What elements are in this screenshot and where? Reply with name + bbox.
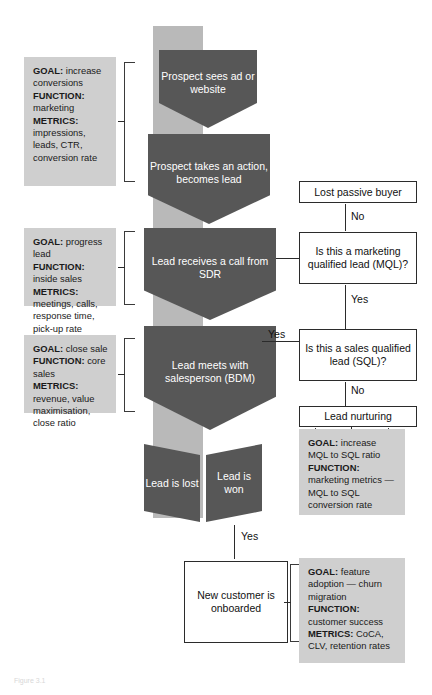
annotation-goal-key: GOAL:	[33, 236, 63, 247]
decision-mql-question[interactable]: Is this a marketing qualified lead (MQL)…	[299, 232, 417, 284]
connector-sql-to-nurturing	[345, 382, 346, 406]
bracket-core-sales	[124, 338, 135, 412]
annotation-metrics-value: revenue, value maximisation, close ratio	[33, 393, 95, 429]
annotation-marketing: GOAL: increase conversions FUNCTION: mar…	[24, 57, 116, 186]
decision-sql-question[interactable]: Is this a sales qualified lead (SQL)?	[299, 329, 417, 381]
connector-funnel-to-mql	[276, 258, 300, 259]
bracket-marketing-stub	[118, 121, 125, 122]
connector-label-yes-onboard: Yes	[241, 530, 258, 542]
outcome-new-customer-onboarded[interactable]: New customer is onboarded	[184, 561, 288, 643]
annotation-function-value: marketing metrics — MQL to SQL conversio…	[308, 474, 394, 510]
annotation-metrics-key: METRICS:	[33, 115, 78, 126]
connector-label-no: No	[351, 210, 364, 222]
annotation-core-sales: GOAL: close sale FUNCTION: core sales ME…	[24, 335, 116, 413]
decision-lost-passive-buyer[interactable]: Lost passive buyer	[299, 181, 417, 203]
connector-label-yes: Yes	[351, 293, 368, 305]
connector-lost-to-mql	[345, 204, 346, 231]
funnel-stage-label: Lead meets with salesperson (BDM)	[144, 359, 276, 398]
diagram-canvas: Prospect sees ad or website Prospect tak…	[0, 0, 432, 695]
annotation-function-value: customer success	[308, 616, 383, 627]
annotation-customer-success: GOAL: feature adoption — churn migration…	[299, 558, 405, 663]
annotation-metrics-key: METRICS:	[33, 380, 78, 391]
annotation-nurturing: GOAL: increase MQL to SQL ratio FUNCTION…	[299, 429, 405, 515]
annotation-goal-value: close sale	[63, 343, 107, 354]
funnel-outcome-lead-is-lost: Lead is lost	[144, 444, 200, 522]
annotation-inside-sales: GOAL: progress lead FUNCTION: inside sal…	[24, 228, 116, 306]
funnel-stage-label: Lead receives a call from SDR	[144, 255, 276, 294]
funnel-stage-label: Prospect sees ad or website	[159, 70, 257, 109]
funnel-stage-label: Prospect takes an action, becomes lead	[148, 160, 270, 199]
connector-won-to-onboard	[234, 525, 235, 559]
connector-mql-to-sql	[345, 285, 346, 329]
figure-caption: Figure 3.1	[14, 676, 314, 685]
annotation-metrics-key: METRICS:	[33, 286, 78, 297]
decision-lead-nurturing[interactable]: Lead nurturing	[299, 406, 417, 427]
bracket-marketing	[124, 62, 135, 182]
funnel-outcome-label: Lead is won	[206, 470, 262, 496]
connector-label-yes-from-bdm: Yes	[268, 328, 285, 340]
annotation-function-value: marketing	[33, 102, 74, 113]
funnel-outcome-label: Lead is lost	[145, 477, 198, 490]
annotation-goal-key: GOAL:	[308, 566, 338, 577]
bracket-customer-success-stub	[284, 602, 291, 603]
annotation-metrics-key: METRICS:	[308, 628, 353, 639]
annotation-goal-key: GOAL:	[33, 65, 63, 76]
annotation-metrics-value: impressions, leads, CTR, conversion rate	[33, 127, 97, 163]
annotation-function-key: FUNCTION:	[33, 261, 85, 272]
annotation-goal-key: GOAL:	[308, 437, 338, 448]
outcome-label: New customer is onboarded	[189, 589, 283, 615]
bracket-inside-sales-stub	[118, 267, 125, 268]
annotation-goal-key: GOAL:	[33, 343, 63, 354]
funnel-outcome-lead-is-won: Lead is won	[206, 444, 262, 522]
decision-label: Lost passive buyer	[314, 186, 402, 199]
decision-label: Lead nurturing	[324, 410, 392, 423]
annotation-function-key: FUNCTION:	[308, 603, 360, 614]
connector-bdm-to-sql	[262, 341, 300, 342]
annotation-function-key: FUNCTION:	[33, 355, 85, 366]
bracket-core-sales-stub	[118, 374, 125, 375]
connector-label-no-nurturing: No	[351, 384, 364, 396]
bracket-inside-sales	[124, 231, 135, 305]
decision-label: Is this a sales qualified lead (SQL)?	[304, 342, 412, 368]
decision-label: Is this a marketing qualified lead (MQL)…	[304, 245, 412, 271]
annotation-function-key: FUNCTION:	[308, 462, 360, 473]
annotation-metrics-value: meetings, calls, response time, pick-up …	[33, 298, 98, 334]
annotation-function-value: inside sales	[33, 273, 82, 284]
annotation-function-key: FUNCTION:	[33, 90, 85, 101]
